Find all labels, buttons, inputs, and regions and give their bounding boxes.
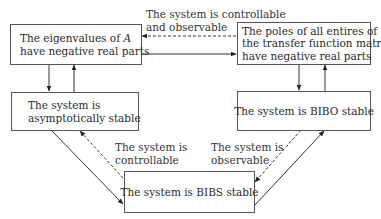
- node-bibo-line1: The system is BIBO stable: [234, 105, 374, 118]
- label-top-line2: and observable: [146, 21, 286, 34]
- edge-asymp-to-bibs: [51, 130, 123, 204]
- node-eigenvalues: The eigenvalues of A have negative real …: [10, 24, 142, 65]
- label-right-line1: The system is: [211, 141, 284, 154]
- label-controllable-and-observable: The system is controllable and observabl…: [146, 8, 286, 34]
- node-eigenvalues-line2: have negative real parts: [20, 45, 141, 58]
- node-poles-line2: the transfer function matrix: [242, 37, 370, 50]
- node-eigenvalues-line1: The eigenvalues of A: [20, 32, 141, 45]
- node-asymp-line1: The system is: [28, 99, 138, 112]
- label-observable: The system is observable: [211, 141, 284, 167]
- label-controllable: The system is controllable: [115, 141, 188, 167]
- node-asymp-line2: asymptotically stable: [28, 112, 138, 125]
- label-left-line1: The system is: [115, 141, 188, 154]
- node-bibs-line1: The system is BIBS stable: [120, 186, 258, 199]
- node-poles-line3: have negative real parts: [242, 50, 370, 63]
- label-left-line2: controllable: [115, 154, 188, 167]
- label-right-line2: observable: [211, 154, 284, 167]
- label-top-line1: The system is controllable: [146, 8, 286, 21]
- matrix-a-symbol: A: [123, 32, 131, 44]
- node-asymptotically-stable: The system is asymptotically stable: [11, 92, 139, 131]
- node-bibs-stable: The system is BIBS stable: [124, 171, 255, 213]
- node-bibo-stable: The system is BIBO stable: [237, 91, 371, 131]
